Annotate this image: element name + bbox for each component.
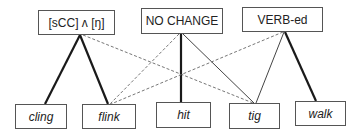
link-thin (183, 34, 254, 103)
link-thin (256, 32, 284, 103)
link-thick (285, 32, 316, 101)
pattern-box-scc-ng: [sCC] ʌ [ŋ] (38, 10, 115, 35)
word-box-tig: tig (229, 103, 280, 129)
word-box-cling: cling (15, 104, 67, 129)
link-dashed (111, 32, 283, 104)
word-box-hit: hit (156, 102, 211, 128)
link-thick (80, 35, 108, 104)
pattern-box-no-change: NO CHANGE (141, 8, 223, 34)
link-thick (45, 35, 80, 104)
pattern-association-diagram: [sCC] ʌ [ŋ] NO CHANGE VERB-ed cling flin… (0, 0, 362, 136)
word-box-walk: walk (295, 101, 346, 126)
word-box-flink: flink (82, 104, 136, 129)
pattern-box-verb-ed: VERB-ed (242, 7, 323, 32)
